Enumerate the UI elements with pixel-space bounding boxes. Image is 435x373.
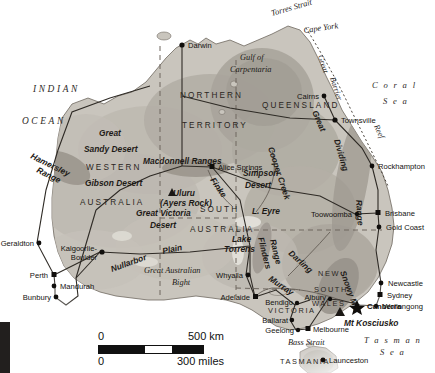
- city-label-bendigo: Bendigo: [265, 298, 293, 307]
- state-label-new: NEW: [318, 269, 340, 278]
- city-label-boulder: Boulder: [71, 253, 98, 262]
- phys-label-torrens: Torrens: [224, 244, 255, 254]
- phys-label-uluru: Uluru: [173, 188, 195, 198]
- state-label-queensland: QUEENSLAND: [262, 101, 339, 110]
- phys-label-gibson-desert: Gibson Desert: [85, 178, 143, 188]
- sea-label-tasman-2: S e a: [380, 347, 406, 357]
- scale-km-zero: 0: [98, 330, 104, 342]
- city-marker-bunbury[interactable]: [54, 295, 59, 300]
- city-marker-kalgoorlie[interactable]: [99, 249, 104, 254]
- city-label-sydney: Sydney: [387, 291, 413, 300]
- state-label-territory: TERRITORY: [182, 121, 248, 130]
- scale-seg-2: [172, 346, 203, 353]
- city-label-melbourne: Melbourne: [313, 325, 349, 334]
- phys-label-carpentaria: Carpentaria: [230, 65, 271, 74]
- city-marker-ballarat[interactable]: [290, 318, 294, 322]
- city-label-townsville: Townsville: [341, 116, 376, 125]
- city-marker-perth[interactable]: [52, 272, 57, 277]
- city-marker-geelong[interactable]: [296, 328, 300, 332]
- city-label-geraldton: Geraldton: [1, 239, 34, 248]
- sea-label-coral-1: C o r a l: [372, 80, 417, 90]
- city-marker-melbourne[interactable]: [306, 326, 311, 331]
- city-label-kalgoorlie: Kalgoorlie-: [61, 244, 98, 253]
- map-scale-bar: 0 500 km 0 300 miles: [98, 330, 224, 370]
- phys-label-lake-eyre: L. Eyre: [252, 206, 280, 216]
- city-label-ballarat: Ballarat: [262, 316, 289, 325]
- scale-seg-1: [99, 346, 145, 353]
- city-label-cairns: Cairns: [297, 92, 319, 101]
- city-marker-albury[interactable]: [328, 297, 332, 301]
- sea-label-tasman-1: T a s m a n: [364, 335, 422, 345]
- scale-miles-value: 300 miles: [177, 355, 224, 367]
- city-marker-brisbane[interactable]: [376, 210, 381, 215]
- city-label-darwin: Darwin: [188, 41, 212, 50]
- phys-label-mt-kosciusko: Mt Kosciusko: [344, 318, 398, 328]
- phys-label-sandy-desert: Sandy Desert: [84, 144, 139, 154]
- city-label-newcastle: Newcastle: [388, 279, 423, 288]
- city-marker-mandurah[interactable]: [52, 284, 57, 289]
- page-canvas: o two islands. volcanoes and has mountai…: [0, 0, 435, 373]
- scale-km-value: 500 km: [188, 330, 224, 342]
- city-marker-whyalla[interactable]: [246, 273, 251, 278]
- city-label-brisbane: Brisbane: [385, 209, 415, 218]
- city-label-alice-springs: Alice Springs: [218, 163, 263, 172]
- city-marker-bendigo[interactable]: [295, 301, 299, 305]
- city-marker-newcastle[interactable]: [379, 281, 384, 286]
- ocean-label-ocean: OCEAN: [22, 116, 66, 126]
- city-marker-launceston[interactable]: [321, 358, 326, 363]
- phys-label-gulf-of: Gulf of: [240, 53, 265, 62]
- state-label-wa-australia: AUSTRALIA: [80, 198, 144, 207]
- city-marker-sydney[interactable]: [378, 292, 383, 297]
- state-label-victoria: VICTORIA: [268, 306, 316, 315]
- city-label-perth: Perth: [30, 271, 48, 280]
- city-label-mandurah: Mandurah: [60, 282, 94, 291]
- state-label-western: WESTERN: [86, 163, 142, 172]
- state-label-sa-australia: AUSTRALIA: [190, 225, 254, 234]
- city-marker-rockhampton[interactable]: [370, 164, 375, 169]
- city-marker-townsville[interactable]: [332, 117, 337, 122]
- phys-label-great: Great: [99, 128, 122, 138]
- phys-label-great-australian: Great Australian: [144, 266, 201, 275]
- city-label-albury: Albury: [304, 293, 326, 302]
- city-label-toowoomba: Toowoomba: [311, 210, 353, 219]
- state-label-northern: NORTHERN: [180, 91, 243, 100]
- city-label-bunbury: Bunbury: [23, 293, 51, 302]
- city-label-rockhampton: Rockhampton: [378, 162, 425, 171]
- phys-label-ayers-rock: (Ayers Rock): [160, 198, 212, 208]
- phys-label-lake: Lake: [232, 234, 251, 244]
- sea-label-coral-2: S e a: [383, 96, 409, 106]
- scale-bar-graphic: [98, 345, 204, 354]
- australia-map: INDIAN OCEAN C o r a l S e a T a s m a n…: [0, 0, 435, 373]
- city-label-whyalla: Whyalla: [216, 271, 244, 280]
- page-edge-block: [0, 322, 10, 373]
- city-label-adelaide: Adelaide: [220, 293, 250, 302]
- city-marker-geraldton[interactable]: [37, 241, 42, 246]
- phys-label-gv-desert: Desert: [150, 220, 177, 230]
- phys-label-simpson-desert: Desert: [245, 180, 272, 190]
- city-marker-darwin[interactable]: [179, 42, 184, 47]
- city-label-geelong: Geelong: [265, 326, 294, 335]
- city-marker-cairns[interactable]: [322, 94, 327, 99]
- city-marker-toowoomba[interactable]: [355, 212, 359, 216]
- ocean-label-indian: INDIAN: [32, 84, 80, 94]
- city-label-gold-coast: Gold Coast: [386, 223, 425, 232]
- phys-label-great-victoria: Great Victoria: [136, 208, 191, 218]
- city-label-launceston: Launceston: [329, 356, 368, 365]
- city-marker-alice-springs[interactable]: [210, 164, 215, 169]
- phys-label-bight: Bight: [172, 278, 191, 287]
- city-marker-gold-coast[interactable]: [377, 225, 382, 230]
- city-marker-adelaide[interactable]: [253, 294, 258, 299]
- scale-miles-zero: 0: [98, 355, 104, 367]
- phys-label-bass-strait: Bass Strait: [288, 338, 325, 347]
- city-label-canberra: Canberra: [367, 302, 402, 311]
